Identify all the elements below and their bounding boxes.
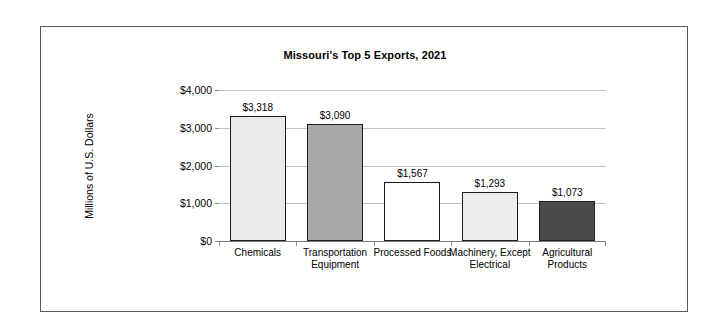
x-tick-label: Machinery, Except Electrical: [447, 247, 533, 270]
bar-group: $3,090Transportation Equipment: [296, 90, 373, 241]
x-tick-mark: [529, 241, 530, 246]
x-axis-baseline: [219, 241, 606, 242]
y-tick-label: $0: [200, 235, 212, 247]
y-tick-label: $3,000: [180, 122, 212, 134]
x-tick-mark: [374, 241, 375, 246]
x-tick-mark: [219, 241, 220, 246]
bar[interactable]: [230, 116, 286, 241]
bar-group: $1,293Machinery, Except Electrical: [451, 90, 528, 241]
bar[interactable]: [462, 192, 518, 241]
x-tick-mark: [451, 241, 452, 246]
bar-value-label: $1,073: [552, 187, 583, 198]
bar[interactable]: [539, 201, 595, 242]
plot-area: $0$1,000$2,000$3,000$4,000$3,318Chemical…: [219, 90, 606, 241]
y-tick-label: $1,000: [180, 197, 212, 209]
x-tick-label: Transportation Equipment: [292, 247, 378, 270]
x-tick-mark: [605, 241, 606, 246]
y-axis-title: Millions of U.S. Dollars: [83, 81, 95, 251]
bar[interactable]: [307, 124, 363, 241]
x-tick-mark: [296, 241, 297, 246]
bar-group: $3,318Chemicals: [219, 90, 296, 241]
y-tick-label: $4,000: [180, 84, 212, 96]
x-tick-label: Agricultural Products: [524, 247, 610, 270]
bar-value-label: $1,293: [475, 178, 506, 189]
bar-group: $1,567Processed Foods: [374, 90, 451, 241]
bar-value-label: $1,567: [397, 168, 428, 179]
chart-title: Missouri's Top 5 Exports, 2021: [41, 49, 689, 61]
bar[interactable]: [384, 182, 440, 241]
chart-figure-frame: Missouri's Top 5 Exports, 2021 Millions …: [40, 26, 688, 312]
bar-group: $1,073Agricultural Products: [529, 90, 606, 241]
y-tick-label: $2,000: [180, 160, 212, 172]
x-tick-label: Processed Foods: [369, 247, 455, 259]
bar-value-label: $3,090: [320, 110, 351, 121]
bar-value-label: $3,318: [242, 102, 273, 113]
x-tick-label: Chemicals: [215, 247, 301, 259]
